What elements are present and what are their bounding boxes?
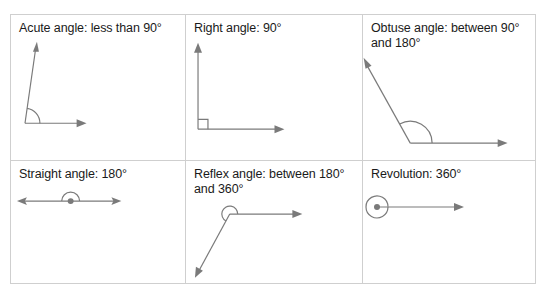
reflex-angle-icon [186, 161, 362, 283]
revolution-angle-icon [363, 161, 535, 283]
cell-obtuse-angle: Obtuse angle: between 90° and 180° [363, 15, 535, 161]
cell-straight-angle: Straight angle: 180° [11, 161, 186, 283]
cell-acute-angle: Acute angle: less than 90° [11, 15, 186, 161]
straight-angle-icon [11, 161, 185, 283]
cropped-heading-fragment [0, 0, 549, 6]
angle-types-table: Acute angle: less than 90° Right angle: … [10, 14, 536, 284]
cell-reflex-angle: Reflex angle: between 180° and 360° [186, 161, 363, 283]
cell-right-angle: Right angle: 90° [186, 15, 363, 161]
cell-revolution-angle: Revolution: 360° [363, 161, 535, 283]
acute-angle-icon [11, 15, 185, 160]
right-angle-icon [186, 15, 362, 160]
obtuse-angle-icon [363, 15, 535, 160]
